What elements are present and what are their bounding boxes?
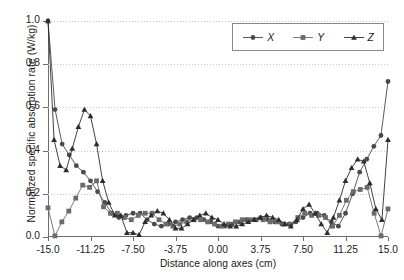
triangle-marker [355,156,361,161]
circle-marker [371,144,376,149]
square-marker [233,219,238,224]
square-marker [129,217,134,222]
square-marker [143,211,148,216]
triangle-marker [203,210,209,215]
triangle-marker [209,215,215,220]
triangle-marker [100,178,106,183]
circle-marker [60,142,65,147]
triangle-marker [318,221,324,226]
triangle-marker [379,217,385,222]
square-marker [372,211,377,216]
legend-item-z[interactable]: Z [343,32,374,43]
y-axis-tick-label: 0.8 [0,57,40,68]
square-marker [358,187,363,192]
circle-marker [336,224,341,229]
square-marker [323,215,328,220]
circle-marker [242,32,264,43]
triangle-marker [367,180,373,185]
square-marker [53,234,58,239]
y-axis-title: Normalized specific absorption rate (W/k… [26,9,37,239]
circle-marker [357,170,362,175]
square-marker [205,219,210,224]
square-marker [386,207,391,212]
triangle-marker [94,141,100,146]
square-marker [80,183,85,188]
legend-label: X [267,32,274,43]
triangle-marker [343,32,365,43]
triangle-marker [385,137,391,142]
square-marker [268,219,273,224]
x-axis-tick [346,237,347,241]
circle-marker [386,79,391,84]
circle-marker [74,163,79,168]
series-line-z [48,21,388,235]
x-axis-tick [91,237,92,241]
circle-marker [131,211,136,216]
x-axis-tick-label: 15.0 [358,244,404,255]
square-marker [59,219,64,224]
triangle-marker [82,107,88,112]
circle-marker [251,35,256,40]
square-marker [379,234,384,239]
square-marker [87,185,92,190]
square-marker [301,35,306,40]
square-marker [292,32,314,43]
triangle-marker [75,124,81,129]
square-marker [46,205,51,210]
legend-label: Y [317,32,324,43]
triangle-marker [306,202,312,207]
circle-marker [343,211,348,216]
y-axis-tick-label: 1.0 [0,14,40,25]
circle-marker [159,224,164,229]
circle-marker [81,170,86,175]
x-axis-tick [303,237,304,241]
legend-item-y[interactable]: Y [292,32,324,43]
triangle-marker [264,212,270,217]
triangle-marker [300,206,306,211]
series-layer [48,21,388,237]
circle-marker [88,178,93,183]
triangle-marker [57,163,63,168]
x-axis-tick [388,237,389,241]
square-marker [66,209,71,214]
triangle-marker [69,145,75,150]
triangle-marker [51,137,57,142]
y-axis-tick-label: 0.6 [0,100,40,111]
square-marker [94,178,99,183]
plot-area [48,21,388,237]
square-marker [212,222,217,227]
square-marker [344,198,349,203]
square-marker [108,211,113,216]
y-axis-tick-label: 0.0 [0,230,40,241]
square-marker [365,185,370,190]
triangle-marker [330,215,336,220]
x-axis-tick [218,237,219,241]
series-markers-y [46,178,391,238]
triangle-marker [154,208,160,213]
square-marker [73,196,78,201]
triangle-marker [63,167,69,172]
y-axis-tick-label: 0.4 [0,144,40,155]
square-marker [198,217,203,222]
triangle-marker [343,178,349,183]
circle-marker [53,107,58,112]
x-axis-tick [261,237,262,241]
circle-marker [379,133,384,138]
legend-item-x[interactable]: X [242,32,274,43]
sar-line-chart: Normalized specific absorption rate (W/k… [0,0,404,280]
square-marker [351,189,356,194]
square-marker [157,217,162,222]
circle-marker [152,222,157,227]
y-axis-tick-label: 0.2 [0,187,40,198]
triangle-marker [337,197,343,202]
square-marker [164,222,169,227]
x-axis-tick [176,237,177,241]
square-marker [101,204,106,209]
circle-marker [180,217,185,222]
x-axis-tick [133,237,134,241]
chart-legend: XYZ [232,23,384,51]
square-marker [136,213,141,218]
x-axis-tick [48,237,49,241]
triangle-marker [373,206,379,211]
x-axis-title: Distance along axes (cm) [48,258,388,269]
